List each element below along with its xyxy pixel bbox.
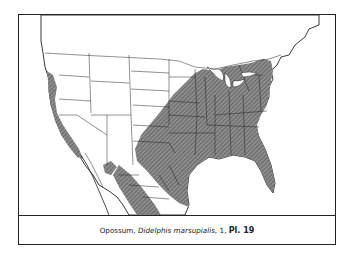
range-map <box>19 15 334 215</box>
figure-caption: Opossum, Didelphis marsupialis, 1, Pl. 1… <box>19 216 335 244</box>
caption-scientific-name: Didelphis marsupialis, <box>138 226 217 235</box>
map-figure-frame: Opossum, Didelphis marsupialis, 1, Pl. 1… <box>18 14 336 245</box>
caption-number: 1, <box>220 226 227 235</box>
caption-plate-label: Pl. 19 <box>229 226 255 235</box>
caption-common-name: Opossum, <box>100 226 136 235</box>
